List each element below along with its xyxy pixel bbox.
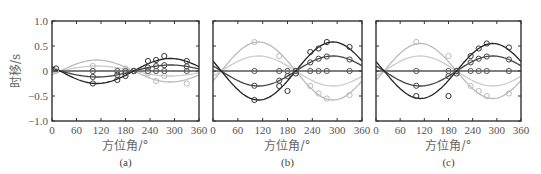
data-point-dark (145, 58, 150, 63)
panels: 060120180240300360方位角/°(a)06012018024030… (49, 21, 530, 169)
data-point-dark (446, 93, 451, 98)
x-tick-label: 360 (354, 124, 371, 136)
y-tick-label: 0 (43, 65, 49, 77)
x-tick-label: 120 (416, 124, 433, 136)
x-tick-label: 300 (166, 124, 183, 136)
panel-label: (b) (281, 156, 294, 169)
panel-c: 060120180240300360方位角/°(c) (373, 21, 530, 169)
x-tick-label: 120 (93, 124, 110, 136)
x-tick-label: 360 (513, 124, 530, 136)
plot-area (376, 39, 521, 98)
x-tick-label: 0 (210, 124, 216, 136)
plot-area (213, 39, 362, 102)
x-axis-title: 方位角/° (102, 138, 148, 153)
panel-label: (a) (119, 156, 132, 169)
y-tick-label: 0.5 (34, 40, 48, 52)
x-tick-label: 240 (142, 124, 159, 136)
data-point-light (446, 53, 451, 58)
x-tick-label: 300 (329, 124, 346, 136)
x-tick-label: 60 (395, 124, 407, 136)
data-point-light (277, 53, 282, 58)
x-tick-label: 300 (489, 124, 506, 136)
y-tick-labels: 1.00.50−0.5−1.0 (28, 15, 48, 127)
data-point-light (184, 81, 189, 86)
panel-b: 060120180240300360方位角/°(b) (210, 21, 371, 169)
x-tick-label: 0 (373, 124, 379, 136)
x-axis-title: 方位角/° (264, 138, 310, 153)
x-tick-label: 120 (254, 124, 271, 136)
x-tick-label: 240 (304, 124, 321, 136)
data-point-dark (277, 83, 282, 88)
x-tick-label: 180 (117, 124, 134, 136)
plot-area (52, 53, 199, 86)
x-tick-label: 0 (49, 124, 55, 136)
x-tick-label: 240 (464, 124, 481, 136)
x-tick-label: 60 (232, 124, 244, 136)
x-tick-label: 180 (279, 124, 296, 136)
panel-label: (c) (442, 156, 455, 169)
figure: 时移/s 1.00.50−0.5−1.0 060120180240300360方… (0, 0, 541, 174)
x-axis-title: 方位角/° (425, 138, 471, 153)
y-axis-title: 时移/s (9, 54, 23, 88)
y-tick-label: −1.0 (28, 115, 48, 127)
x-tick-label: 180 (440, 124, 457, 136)
x-tick-label: 360 (191, 124, 208, 136)
y-tick-label: −0.5 (28, 90, 48, 102)
panel-a: 060120180240300360方位角/°(a) (49, 21, 208, 169)
data-point-dark (162, 53, 167, 58)
x-tick-label: 60 (71, 124, 83, 136)
y-axis-label: 时移/s (9, 54, 23, 88)
data-point-dark (285, 88, 290, 93)
y-tick-label: 1.0 (34, 15, 48, 27)
